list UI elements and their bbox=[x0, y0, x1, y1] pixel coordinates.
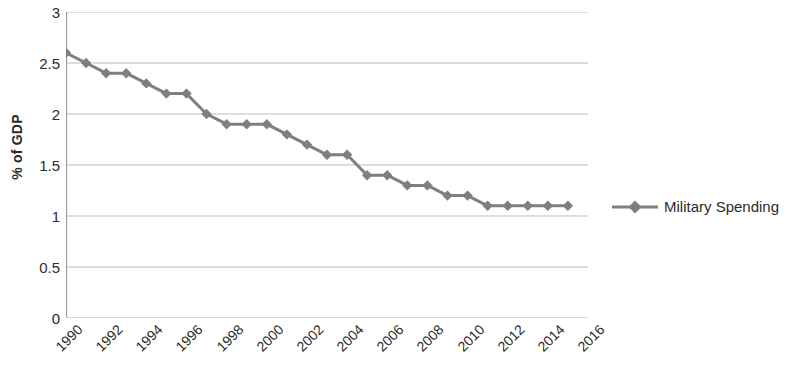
x-tick-label: 1990 bbox=[53, 322, 85, 354]
data-point-marker bbox=[322, 150, 332, 160]
data-point-marker bbox=[262, 119, 272, 129]
legend-marker-icon bbox=[612, 199, 658, 215]
x-tick-label: 1994 bbox=[133, 322, 165, 354]
y-tick-label: 3 bbox=[2, 5, 60, 20]
data-point-marker bbox=[101, 68, 111, 78]
x-tick-label: 2000 bbox=[254, 322, 286, 354]
y-tick-label: 1.5 bbox=[2, 158, 60, 173]
x-tick-label: 2006 bbox=[374, 322, 406, 354]
data-point-marker bbox=[282, 129, 292, 139]
data-point-marker bbox=[523, 201, 533, 211]
y-tick-label: 2.5 bbox=[2, 56, 60, 71]
data-point-marker bbox=[141, 78, 151, 88]
x-tick-label: 1998 bbox=[214, 322, 246, 354]
x-tick-label: 2016 bbox=[575, 322, 607, 354]
x-axis-tick-labels: 1990199219941996199820002002200420062008… bbox=[66, 322, 626, 375]
series-line-0 bbox=[66, 53, 568, 206]
x-tick-label: 2002 bbox=[294, 322, 326, 354]
data-point-marker bbox=[422, 180, 432, 190]
data-point-marker bbox=[241, 119, 251, 129]
chart-legend: Military Spending bbox=[612, 198, 779, 215]
data-point-marker bbox=[543, 201, 553, 211]
data-point-marker bbox=[482, 201, 492, 211]
x-tick-label: 1992 bbox=[93, 322, 125, 354]
data-point-marker bbox=[81, 58, 91, 68]
line-chart-svg bbox=[66, 12, 588, 318]
y-tick-label: 0.5 bbox=[2, 260, 60, 275]
data-point-marker bbox=[302, 139, 312, 149]
x-tick-label: 1996 bbox=[173, 322, 205, 354]
x-tick-label: 2012 bbox=[495, 322, 527, 354]
data-point-marker bbox=[121, 68, 131, 78]
data-point-marker bbox=[442, 190, 452, 200]
data-point-marker bbox=[221, 119, 231, 129]
chart-container: % of GDP 00.511.522.53 19901992199419961… bbox=[0, 0, 791, 375]
x-tick-label: 2008 bbox=[414, 322, 446, 354]
x-tick-label: 2014 bbox=[535, 322, 567, 354]
y-tick-label: 1 bbox=[2, 209, 60, 224]
legend-label-military-spending: Military Spending bbox=[664, 198, 779, 215]
data-point-marker bbox=[462, 190, 472, 200]
plot-area bbox=[66, 12, 588, 318]
data-point-marker bbox=[161, 88, 171, 98]
data-point-marker bbox=[402, 180, 412, 190]
x-tick-label: 2010 bbox=[455, 322, 487, 354]
data-point-marker bbox=[563, 201, 573, 211]
y-tick-label: 2 bbox=[2, 107, 60, 122]
y-axis-tick-labels: 00.511.522.53 bbox=[0, 12, 60, 318]
data-point-marker bbox=[502, 201, 512, 211]
data-point-marker bbox=[382, 170, 392, 180]
x-tick-label: 2004 bbox=[334, 322, 366, 354]
y-tick-label: 0 bbox=[2, 311, 60, 326]
